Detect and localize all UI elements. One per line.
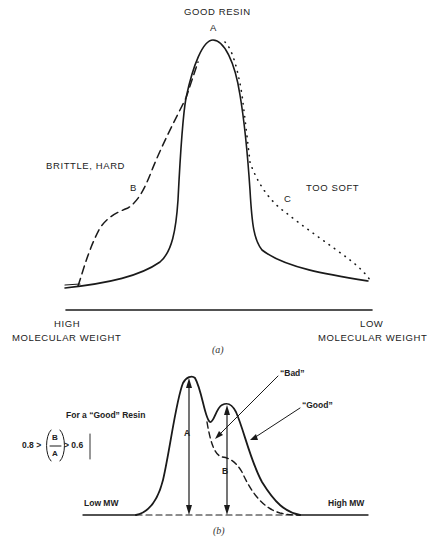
low-mw-label: Low MW: [84, 498, 118, 508]
too-soft-label: TOO SOFT: [306, 182, 359, 193]
x-axis-high-label: HIGH: [54, 318, 80, 329]
panel-a: [65, 40, 372, 310]
high-mw-label: High MW: [328, 498, 364, 508]
curve-good-solid: [136, 377, 300, 515]
good-label: “Good”: [302, 400, 333, 410]
arrow-b-head-top: [224, 405, 230, 415]
arrow-b-label: B: [222, 466, 228, 476]
arrow-a-label: A: [184, 428, 190, 438]
rule-lhs: 0.8 >: [22, 440, 41, 450]
rule-numerator: B: [52, 433, 58, 442]
rule-denominator: A: [52, 449, 58, 458]
arrow-a-head-top: [186, 378, 192, 388]
good-pointer-line: [254, 408, 300, 438]
panel-b: [47, 376, 369, 515]
arrow-a-head-bottom: [186, 505, 192, 515]
rule-title: For a “Good” Resin: [66, 410, 145, 420]
curve-c-label: C: [284, 193, 291, 204]
caption-b: (b): [213, 525, 225, 536]
rule-rhs: > 0.6: [64, 440, 83, 450]
x-axis-low-label: LOW: [360, 318, 383, 329]
good-pointer-head: [250, 434, 258, 440]
bad-label: “Bad”: [280, 368, 305, 378]
arrow-b-head-bottom: [224, 505, 230, 515]
diagram-canvas: [0, 0, 435, 542]
curve-c-dotted: [225, 42, 370, 280]
good-resin-label: GOOD RESIN: [184, 6, 251, 17]
peak-a-label: A: [210, 22, 217, 33]
caption-a: (a): [212, 344, 224, 355]
curve-b-label: B: [130, 182, 137, 193]
x-axis-high-mw-label: MOLECULAR WEIGHT: [12, 332, 121, 343]
brittle-hard-label: BRITTLE, HARD: [46, 160, 125, 171]
x-axis-low-mw-label: MOLECULAR WEIGHT: [318, 332, 427, 343]
